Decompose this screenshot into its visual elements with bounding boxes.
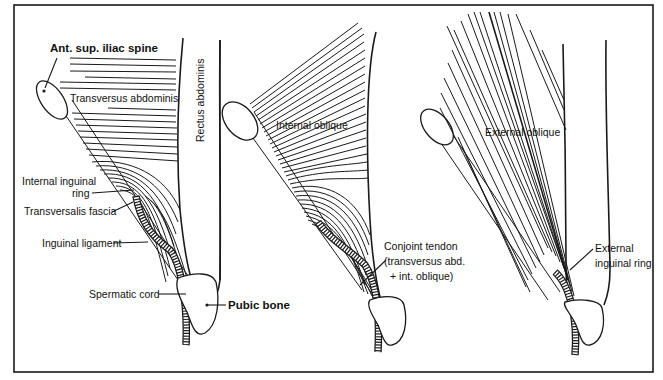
label-internal-inguinal-ring: Internal inguinal <box>22 175 96 187</box>
asis-bone-2 <box>215 95 265 147</box>
panel-transversus-abdominis: Ant. sup. iliac spine Transversus abdomi… <box>22 38 290 345</box>
label-transversus-abdominis: Transversus abdominis <box>70 92 178 104</box>
external-oblique-fibers <box>440 12 574 296</box>
label-rectus-abdominis: Rectus abdominis <box>194 59 206 142</box>
label-spermatic-cord: Spermatic cord <box>89 288 160 300</box>
label-conjoint-tendon-2: (transversus abd. <box>384 255 465 267</box>
label-external-inguinal-ring-2: inguinal ring <box>595 257 652 269</box>
figure-frame <box>14 5 653 372</box>
label-inguinal-ligament: Inguinal ligament <box>42 237 121 249</box>
label-internal-oblique: Internal oblique <box>276 119 348 131</box>
label-internal-inguinal-ring-2: ring <box>72 187 90 199</box>
panel-external-oblique: External oblique External inguinal ring <box>414 12 651 355</box>
asis-bone-3 <box>414 103 459 151</box>
label-external-inguinal-ring: External <box>595 242 634 254</box>
inguinal-anatomy-figure: Ant. sup. iliac spine Transversus abdomi… <box>0 0 663 380</box>
label-external-oblique: External oblique <box>485 126 560 138</box>
label-conjoint-tendon: Conjoint tendon <box>384 240 458 252</box>
pubic-bone-2 <box>369 297 406 346</box>
label-conjoint-tendon-3: + int. oblique) <box>390 270 453 282</box>
pubic-bone-3 <box>564 300 603 345</box>
label-pubic-bone: Pubic bone <box>228 299 290 311</box>
label-asis: Ant. sup. iliac spine <box>50 42 158 54</box>
label-transversalis-fascia: Transversalis fascia <box>24 205 117 217</box>
